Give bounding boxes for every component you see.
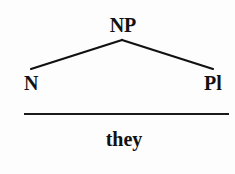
node-child-n: N [24, 73, 38, 93]
syntax-tree-diagram: NP N Pl they [0, 0, 235, 174]
node-root-np: NP [103, 15, 143, 35]
branch-np-to-n [31, 40, 122, 69]
gloss-word: they [84, 128, 164, 150]
horizontal-divider [24, 113, 229, 115]
node-child-pl: Pl [204, 73, 222, 93]
branch-np-to-pl [122, 40, 213, 69]
